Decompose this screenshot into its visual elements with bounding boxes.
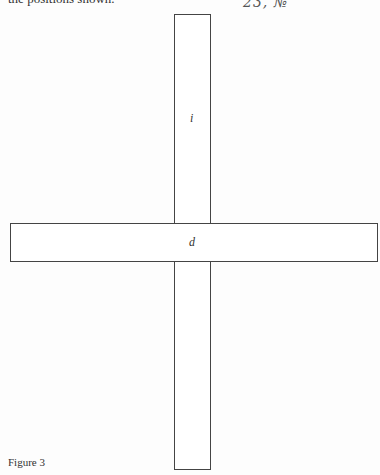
handwritten-note: 23, № bbox=[243, 0, 288, 10]
vertical-bar-label: i bbox=[190, 111, 193, 126]
figure-caption: Figure 3 bbox=[8, 456, 45, 468]
horizontal-bar-label: d bbox=[189, 235, 195, 250]
top-text-fragment: the positions shown. bbox=[8, 0, 115, 7]
